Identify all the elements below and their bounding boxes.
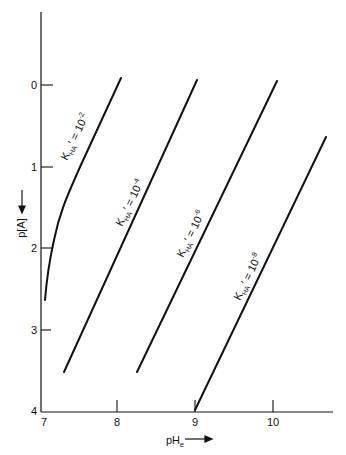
y-tick-0: 0 bbox=[31, 79, 37, 91]
y-axis-label: p[A] bbox=[15, 218, 27, 238]
curve-k-1e-8 bbox=[195, 137, 326, 410]
curve-label-1e-8: KHA′ = 10-8 bbox=[230, 251, 266, 303]
y-ticks bbox=[41, 85, 53, 330]
x-axis-label: pHe bbox=[166, 434, 184, 448]
curve-label-1e-4: KHA′ = 10-4 bbox=[112, 177, 148, 229]
curve-label-1e-2: KHA′ = 10-2 bbox=[57, 111, 93, 163]
x-axis-arrow-icon bbox=[185, 436, 212, 442]
y-tick-3: 3 bbox=[31, 324, 37, 336]
y-tick-1: 1 bbox=[31, 161, 37, 173]
y-tick-2: 2 bbox=[31, 242, 37, 254]
x-tick-labels: 7 8 9 10 bbox=[41, 416, 279, 428]
curve-k-1e-2 bbox=[45, 78, 121, 300]
y-axis-arrow-icon bbox=[19, 190, 25, 213]
svg-text:KHA′ = 10-8: KHA′ = 10-8 bbox=[230, 251, 266, 303]
x-tick-10: 10 bbox=[267, 416, 279, 428]
x-tick-7: 7 bbox=[41, 416, 47, 428]
y-axis-label-group: p[A] bbox=[15, 218, 27, 238]
x-tick-9: 9 bbox=[192, 416, 198, 428]
y-tick-labels: 0 1 2 3 4 bbox=[31, 79, 37, 417]
chart: 0 1 2 3 4 7 8 9 10 p[A] pHe bbox=[0, 0, 346, 455]
curve-k-1e-6 bbox=[137, 81, 277, 372]
svg-text:KHA′ = 10-2: KHA′ = 10-2 bbox=[57, 111, 93, 163]
y-tick-4: 4 bbox=[31, 405, 37, 417]
x-tick-8: 8 bbox=[114, 416, 120, 428]
svg-text:KHA′ = 10-4: KHA′ = 10-4 bbox=[112, 177, 148, 229]
